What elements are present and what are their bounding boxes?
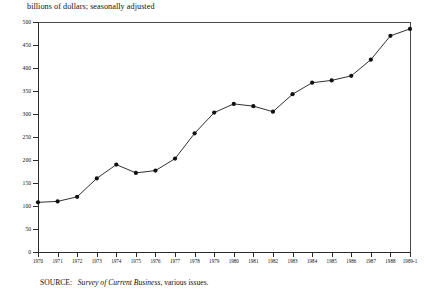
data-point-1981 [251, 104, 255, 108]
data-point-1980 [232, 102, 236, 106]
source-note: SOURCE: Survey of Current Business, vari… [40, 278, 209, 287]
data-point-1986 [349, 74, 353, 78]
data-point-1975 [134, 171, 138, 175]
source-publication-title: Survey of Current Business [78, 278, 161, 287]
data-point-1972 [75, 195, 79, 199]
data-point-1988 [388, 34, 392, 38]
data-point-1970 [36, 200, 40, 204]
data-series-layer [0, 0, 424, 291]
data-point-1983 [290, 92, 294, 96]
data-point-1989-1 [408, 27, 412, 31]
data-point-1987 [369, 58, 373, 62]
data-point-1982 [271, 110, 275, 114]
source-label: SOURCE: [40, 278, 72, 287]
data-point-1974 [114, 163, 118, 167]
data-point-1985 [330, 78, 334, 82]
data-point-1971 [55, 199, 59, 203]
data-point-1979 [212, 111, 216, 115]
data-point-1976 [153, 168, 157, 172]
data-point-1984 [310, 81, 314, 85]
data-line [38, 29, 410, 202]
data-markers [36, 27, 412, 205]
data-point-1978 [193, 131, 197, 135]
data-point-1973 [95, 176, 99, 180]
source-trailing-text: , various issues. [160, 278, 208, 287]
chart-page: billions of dollars; seasonally adjusted… [0, 0, 424, 291]
data-point-1977 [173, 157, 177, 161]
